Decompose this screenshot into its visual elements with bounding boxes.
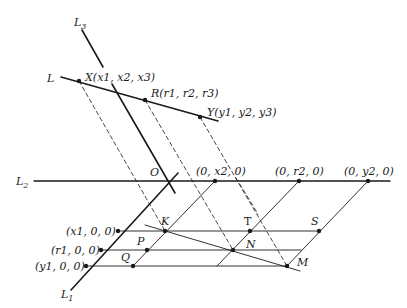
label-R: R(r1, r2, r3) bbox=[150, 87, 219, 100]
label-T: T bbox=[244, 215, 252, 228]
point-K bbox=[163, 229, 167, 233]
label-X: X(x1, x2, x3) bbox=[84, 71, 155, 84]
label-y2-on-L2: (0, y2, 0) bbox=[344, 165, 394, 178]
point-x1-on-L1 bbox=[116, 229, 120, 233]
point-T bbox=[248, 229, 252, 233]
label-L2: L2 bbox=[15, 175, 28, 190]
label-Q: Q bbox=[121, 251, 130, 264]
point-Q bbox=[131, 264, 135, 268]
dashed-projection-X-K bbox=[79, 81, 165, 231]
dashed-projection-Y-M bbox=[200, 117, 287, 266]
point-y2-on-L2 bbox=[366, 179, 370, 183]
slant-from-r2 bbox=[217, 181, 299, 266]
point-r2-on-L2 bbox=[297, 179, 301, 183]
point-X bbox=[77, 79, 81, 83]
label-x1-on-L1: (x1, 0, 0) bbox=[66, 225, 116, 238]
point-Y bbox=[198, 115, 202, 119]
label-r2-on-L2: (0, r2, 0) bbox=[275, 165, 324, 178]
point-M bbox=[285, 264, 289, 268]
label-y1-on-L1: (y1, 0, 0) bbox=[35, 260, 85, 273]
label-x2-on-L2: (0, x2, 0) bbox=[196, 165, 246, 178]
point-R bbox=[143, 98, 147, 102]
label-S: S bbox=[311, 215, 319, 228]
line-K-N-M bbox=[145, 225, 300, 271]
dashed-projection-extra bbox=[236, 178, 258, 214]
label-N: N bbox=[245, 238, 256, 251]
line-L3-upper bbox=[82, 30, 103, 67]
label-M: M bbox=[296, 256, 309, 269]
label-P: P bbox=[136, 235, 145, 248]
slant-from-x2 bbox=[133, 181, 215, 266]
point-N bbox=[231, 248, 235, 252]
slant-from-y2 bbox=[287, 181, 368, 266]
point-P bbox=[145, 248, 149, 252]
label-r1-on-L1: (r1, 0, 0) bbox=[51, 244, 100, 257]
parallel-projection-diagram: L3 L L2 L1 X(x1, x2, x3) R(r1, r2, r3) Y… bbox=[0, 0, 407, 308]
label-Y: Y(y1, y2, y3) bbox=[207, 106, 276, 119]
point-S bbox=[317, 229, 321, 233]
label-O: O bbox=[150, 166, 159, 179]
point-x2-on-L2 bbox=[213, 179, 217, 183]
label-L3: L3 bbox=[73, 16, 86, 31]
label-L: L bbox=[46, 72, 54, 85]
label-K: K bbox=[160, 215, 170, 228]
